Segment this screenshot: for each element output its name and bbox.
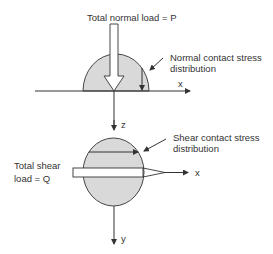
fan-line-lower [143,173,165,178]
normal-load-label: Total normal load = P [87,12,177,23]
normal-stress-label-2: distribution [170,63,216,74]
shear-load-bar [73,168,143,177]
normal-stress-pointer [150,58,163,70]
shear-stress-label-1: Shear contact stress [173,132,260,143]
shear-stress-pointer [144,139,166,151]
x-axis-label-top: x [178,78,183,89]
x-axis-label-bottom: x [195,167,200,178]
shear-load-diagram [73,120,188,244]
shear-load-label-2: load = Q [14,173,50,184]
shear-load-label-1: Total shear [14,160,60,171]
normal-load-diagram [35,24,190,130]
shear-stress-label-2: distribution [173,143,219,154]
fan-line-upper [143,168,165,173]
y-axis-label: y [121,233,126,244]
contact-stress-diagram [0,0,273,254]
normal-stress-label-1: Normal contact stress [170,52,262,63]
z-axis-label: z [121,119,126,130]
